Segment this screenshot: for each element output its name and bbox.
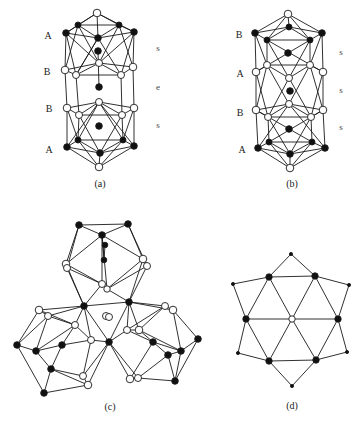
bond-line — [51, 369, 83, 376]
filled-atom — [243, 316, 249, 322]
panel-caption-c: (c) — [104, 401, 115, 412]
open-atom — [45, 313, 52, 320]
open-atom — [252, 68, 260, 76]
bond-line — [238, 353, 269, 361]
filled-atom — [255, 145, 262, 152]
open-atom — [35, 306, 43, 314]
open-atom — [80, 373, 87, 380]
panel-caption-d: (d) — [286, 400, 298, 411]
filled-atom — [97, 150, 104, 157]
panel-b-atoms — [252, 10, 329, 172]
bond-line — [44, 385, 88, 393]
bond-line — [62, 340, 91, 345]
open-atom — [96, 60, 103, 67]
open-atom — [104, 286, 110, 292]
bond-line — [269, 276, 315, 277]
filled-atom — [266, 274, 272, 280]
filled-atom — [81, 303, 88, 310]
bond-line — [84, 302, 129, 306]
bond-line — [109, 302, 129, 342]
filled-atom — [131, 29, 138, 36]
filled-atom — [266, 358, 272, 364]
figure-canvas: ABBAses(a)BABAsss(b)(c)(d) — [0, 0, 364, 426]
filled-atom — [131, 143, 138, 150]
bond-line — [316, 319, 338, 360]
bond-line — [269, 277, 292, 319]
panel-c-atoms — [14, 221, 202, 397]
filled-atom — [125, 221, 132, 228]
bond-line — [65, 33, 66, 70]
open-atom — [76, 112, 83, 119]
bond-line — [238, 319, 246, 353]
open-atom — [73, 72, 80, 79]
panel-caption-a: (a) — [94, 178, 105, 189]
bond-line — [84, 284, 102, 306]
filled-atom — [231, 282, 234, 285]
bond-line — [233, 277, 269, 284]
open-atom — [286, 101, 293, 108]
filled-atom — [195, 336, 202, 343]
stacking-label: s — [156, 120, 160, 130]
open-atom — [284, 10, 292, 18]
open-atom — [63, 104, 71, 112]
bond-line — [289, 65, 310, 104]
bond-line — [102, 235, 143, 259]
bond-line — [88, 342, 109, 385]
filled-atom — [290, 384, 293, 387]
open-atom — [308, 114, 315, 121]
bond-line — [269, 360, 316, 361]
open-atom — [119, 112, 126, 119]
bond-line — [138, 378, 175, 381]
open-atom — [307, 62, 314, 69]
open-atom — [64, 265, 71, 272]
filled-atom — [165, 352, 172, 359]
open-atom — [61, 66, 69, 74]
open-atom — [135, 375, 142, 382]
filled-atom — [63, 30, 70, 37]
bond-line — [98, 51, 99, 87]
filled-atom — [102, 242, 108, 248]
bond-line — [173, 310, 181, 351]
open-atom — [135, 326, 143, 334]
layer-label: A — [44, 30, 51, 41]
layer-label: A — [45, 144, 52, 155]
open-atom — [319, 106, 327, 114]
bond-line — [78, 102, 99, 140]
stacking-label: s — [339, 85, 343, 95]
bond-line — [246, 319, 269, 361]
filled-atom — [14, 342, 21, 349]
open-atom — [289, 316, 295, 322]
filled-atom — [345, 350, 348, 353]
filled-atom — [285, 50, 292, 57]
open-atom — [88, 337, 95, 344]
filled-atom — [307, 37, 313, 43]
filled-atom — [286, 126, 293, 133]
open-atom — [106, 314, 113, 321]
bond-line — [233, 284, 246, 319]
bond-line — [291, 254, 315, 276]
bond-line — [79, 225, 102, 235]
panel-d — [231, 252, 350, 387]
filled-atom — [95, 48, 102, 55]
stacking-label: s — [156, 43, 160, 53]
panel-a — [61, 9, 138, 171]
open-atom — [265, 114, 272, 121]
bond-line — [78, 25, 99, 63]
stacking-label: e — [156, 82, 160, 92]
filled-atom — [287, 88, 294, 95]
bond-line — [173, 310, 198, 339]
filled-atom — [172, 378, 179, 385]
crystal-structure-diagrams — [0, 0, 364, 426]
filled-atom — [264, 37, 270, 43]
bond-line — [323, 110, 325, 148]
bond-line — [338, 319, 347, 352]
filled-atom — [75, 22, 81, 28]
bond-line — [109, 342, 130, 379]
stacking-label: s — [339, 122, 343, 132]
bond-line — [66, 235, 102, 264]
bond-line — [246, 277, 269, 319]
filled-atom — [116, 22, 122, 28]
panel-caption-b: (b) — [286, 178, 298, 189]
bond-line — [292, 319, 316, 360]
open-atom — [130, 104, 138, 112]
